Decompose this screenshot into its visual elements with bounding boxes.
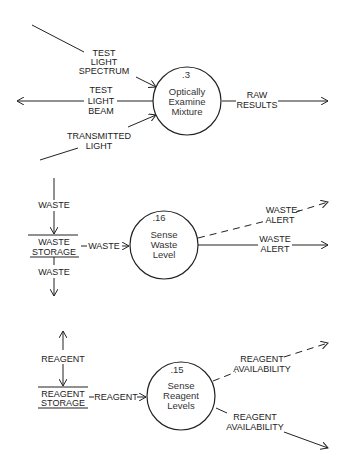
flow-transmitted-light: TRANSMITTED LIGHT bbox=[40, 115, 156, 160]
process-sense-waste-level: .16 Sense Waste Level bbox=[130, 211, 198, 279]
flow-label: TEST bbox=[89, 85, 113, 95]
flow-waste-alert: WASTE ALERT bbox=[198, 234, 328, 254]
flow-waste-to-process: WASTE bbox=[81, 241, 129, 251]
process-label: Mixture bbox=[171, 106, 202, 117]
flow-label: WASTE- bbox=[266, 205, 301, 215]
flow-label: AVAILABILITY bbox=[226, 422, 284, 432]
flow-label: WASTE bbox=[38, 267, 70, 277]
flow-reagent-availability: REAGENT AVAILABILITY bbox=[216, 408, 328, 448]
store-label: STORAGE bbox=[32, 247, 76, 257]
flow-label: ALERT bbox=[261, 244, 290, 254]
flow-label: SPECTRUM bbox=[79, 66, 130, 76]
process-label: Levels bbox=[167, 400, 195, 411]
store-waste-storage: WASTE STORAGE bbox=[28, 235, 79, 257]
flow-test-light-spectrum: TEST LIGHT SPECTRUM bbox=[32, 25, 156, 87]
flow-waste-alert-dashed: WASTE- ALERT bbox=[198, 202, 328, 238]
flow-label: TRANSMITTED bbox=[67, 131, 131, 141]
flow-label: REAGENT bbox=[41, 354, 85, 364]
flow-raw-results: RAW RESULTS bbox=[222, 90, 328, 110]
flow-test-light-beam: TEST LIGHT BEAM bbox=[17, 85, 153, 116]
process-id: .15 bbox=[170, 364, 183, 375]
flow-label: WASTE bbox=[259, 234, 291, 244]
flow-label: BEAM bbox=[88, 106, 114, 116]
flow-label: RAW bbox=[247, 90, 268, 100]
flow-reagent-availability-dashed: REAGENT AVAILABILITY bbox=[213, 343, 328, 381]
flow-waste-out: WASTE bbox=[38, 257, 70, 296]
data-flow-diagram: TEST LIGHT SPECTRUM TEST LIGHT BEAM TRAN… bbox=[0, 0, 344, 471]
flow-reagent-store: REAGENT bbox=[41, 331, 85, 386]
process-id: .16 bbox=[152, 212, 165, 223]
flow-label: REAGENT bbox=[233, 412, 277, 422]
flow-label: WASTE bbox=[88, 241, 120, 251]
flow-label: RESULTS bbox=[237, 100, 278, 110]
store-reagent-storage: REAGENT STORAGE bbox=[38, 387, 88, 408]
flow-label: REAGENT bbox=[94, 392, 138, 402]
flow-label: WASTE bbox=[38, 200, 70, 210]
flow-label: ALERT bbox=[266, 215, 295, 225]
flow-label: LIGHT bbox=[88, 96, 115, 106]
flow-label: REAGENT bbox=[240, 354, 284, 364]
process-label: Level bbox=[153, 249, 176, 260]
flow-waste-in: WASTE bbox=[38, 178, 70, 234]
flow-label: LIGHT bbox=[86, 141, 113, 151]
flow-label: AVAILABILITY bbox=[233, 364, 291, 374]
process-optically-examine-mixture: .3 Optically Examine Mixture bbox=[153, 67, 221, 135]
process-sense-reagent-levels: .15 Sense Reagent Levels bbox=[147, 362, 215, 430]
store-label: STORAGE bbox=[41, 398, 85, 408]
store-label: WASTE bbox=[38, 237, 70, 247]
process-id: .3 bbox=[182, 69, 190, 80]
flow-reagent-to-process: REAGENT bbox=[89, 392, 146, 402]
